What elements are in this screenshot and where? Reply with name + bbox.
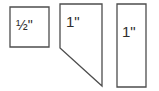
one-inch-rectangle-shape bbox=[117, 4, 146, 87]
one-inch-angled-piece-label: 1" bbox=[66, 13, 80, 30]
diagram-canvas: ½" 1" 1" bbox=[0, 0, 159, 91]
one-inch-rectangle-label: 1" bbox=[122, 23, 136, 40]
half-inch-square-label: ½" bbox=[16, 17, 33, 33]
shapes-svg: ½" 1" 1" bbox=[0, 0, 159, 91]
